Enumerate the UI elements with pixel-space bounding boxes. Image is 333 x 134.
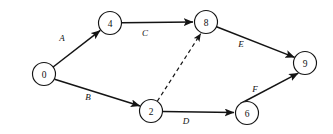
edge-label-E: E <box>237 39 244 49</box>
node-8-label: 8 <box>204 18 209 28</box>
edge-label-A: A <box>58 33 65 43</box>
edge-dummy-line <box>157 34 200 102</box>
node-group: 0 4 8 9 2 6 <box>33 11 317 125</box>
network-diagram: 0 4 8 9 2 6 A B C E D F <box>0 0 333 134</box>
edge-C-line <box>122 22 194 23</box>
edge-D-line <box>163 111 235 112</box>
edge-B-line <box>55 79 141 106</box>
node-6[interactable]: 6 <box>236 102 259 125</box>
node-0[interactable]: 0 <box>33 63 56 86</box>
node-2[interactable]: 2 <box>140 100 163 123</box>
edge-label-D: D <box>182 116 190 126</box>
node-9-label: 9 <box>303 59 308 69</box>
edge-F-line <box>241 73 299 103</box>
edge-label-C: C <box>142 28 149 38</box>
node-2-label: 2 <box>149 107 154 117</box>
node-4-label: 4 <box>108 19 113 29</box>
edge-label-F: F <box>251 84 258 94</box>
node-6-label: 6 <box>245 109 250 119</box>
edge-label-B: B <box>85 92 91 102</box>
node-4[interactable]: 4 <box>99 12 122 35</box>
node-9[interactable]: 9 <box>294 52 317 75</box>
edge-E-line <box>217 27 295 58</box>
node-8[interactable]: 8 <box>195 11 218 34</box>
node-0-label: 0 <box>42 70 47 80</box>
